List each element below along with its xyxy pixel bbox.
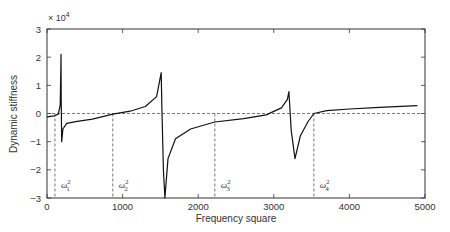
y-tick-label: 2 [36, 52, 41, 63]
y-tick-label: 1 [36, 80, 41, 91]
x-tick-label: 2000 [188, 201, 209, 212]
x-tick-label: 0 [44, 201, 49, 212]
x-axis-label: Frequency square [196, 213, 277, 224]
reference-lines: ω21ω22ω23ω24 [47, 114, 425, 199]
x-tick-label: 3000 [263, 201, 284, 212]
axis-ticks: 0100020003000400050003210−1−2−3 [30, 24, 435, 213]
natural-frequency-label: ω23 [221, 178, 231, 192]
y-tick-label: 3 [36, 24, 41, 35]
natural-frequency-label: ω22 [119, 178, 129, 192]
y-tick-label: −2 [30, 164, 41, 175]
data-series [47, 54, 417, 198]
y-axis-label: Dynamic stiffness [8, 75, 19, 153]
natural-frequency-label: ω24 [320, 178, 330, 192]
x-tick-label: 5000 [414, 201, 435, 212]
y-tick-label: −1 [30, 136, 41, 147]
y-tick-label: −3 [30, 193, 41, 204]
natural-frequency-label: ω21 [61, 178, 71, 192]
axis-labels: × 104 Frequency square Dynamic stiffness [8, 11, 277, 224]
y-multiplier: × 104 [48, 11, 70, 23]
x-tick-label: 4000 [339, 201, 360, 212]
stiffness-curve [47, 54, 417, 198]
y-tick-label: 0 [36, 108, 41, 119]
x-tick-label: 1000 [112, 201, 133, 212]
dynamic-stiffness-chart: 0100020003000400050003210−1−2−3 ω21ω22ω2… [0, 0, 450, 232]
